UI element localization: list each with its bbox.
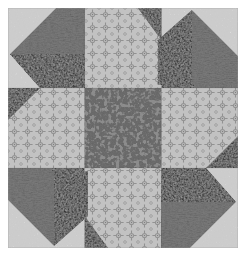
quilt-block-image xyxy=(8,8,238,248)
quilt-figure: Pinwheel Quilt Block xyxy=(0,0,247,257)
center-square-final xyxy=(85,88,162,168)
quilt-block xyxy=(8,8,238,248)
